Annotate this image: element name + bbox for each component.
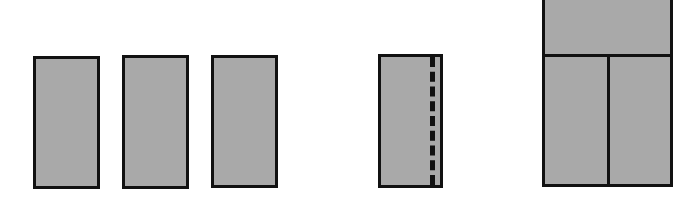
gray-rectangle-2 xyxy=(122,55,189,189)
vertical-divider xyxy=(607,56,610,184)
gray-rectangle-1 xyxy=(33,56,100,189)
dashed-fold-line xyxy=(430,57,435,185)
divided-rectangle xyxy=(542,0,673,187)
gray-rectangle-with-dashed-fold-line xyxy=(378,54,443,188)
gray-rectangle-3 xyxy=(211,55,278,188)
